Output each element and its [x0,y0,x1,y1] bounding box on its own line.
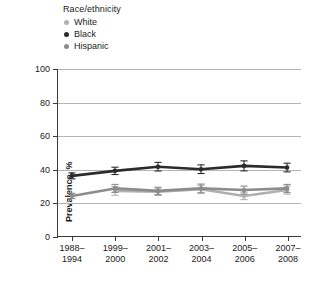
x-tick-label-line1: 2007– [260,243,316,254]
legend-marker-icon [64,44,69,49]
data-point-marker [285,186,290,191]
x-tick [115,236,116,241]
x-tick [245,236,246,241]
series-black [68,161,290,179]
plot-area: Prevalence, % 020406080100 1988–19941999… [57,69,301,237]
x-tick-label: 2007–2008 [260,243,316,265]
data-point-marker [199,167,204,172]
legend-item-label: Black [74,29,96,40]
legend-item-white: White [63,17,121,28]
x-tick-label-line2: 2008 [260,254,316,265]
legend-item-hispanic: Hispanic [63,41,121,52]
y-tick [53,237,58,238]
data-point-marker [285,165,290,170]
y-tick-label: 20 [40,198,50,208]
data-point-marker [242,164,247,169]
data-point-marker [70,194,75,199]
y-tick-label: 0 [45,232,50,242]
x-tick [72,236,73,241]
legend-item-black: Black [63,29,121,40]
y-tick-label: 60 [40,131,50,141]
data-point-marker [113,169,118,174]
x-tick [158,236,159,241]
legend-item-label: White [74,17,97,28]
data-point-marker [70,174,75,179]
data-point-marker [156,164,161,169]
legend-marker-icon [64,32,69,37]
legend-marker-icon [64,20,69,25]
data-point-marker [113,186,118,191]
data-point-marker [242,188,247,193]
y-tick-label: 80 [40,98,50,108]
legend-items: WhiteBlackHispanic [63,17,121,52]
y-tick-label: 40 [40,165,50,175]
data-point-marker [199,186,204,191]
y-tick-label: 100 [35,64,50,74]
series-line [72,166,287,176]
x-tick [288,236,289,241]
legend-item-label: Hispanic [74,41,109,52]
data-series-layer [58,69,301,236]
chart-legend: Race/ethnicity WhiteBlackHispanic [63,4,121,53]
chart-container: Race/ethnicity WhiteBlackHispanic Preval… [0,0,323,285]
x-tick [202,236,203,241]
data-point-marker [156,189,161,194]
legend-title: Race/ethnicity [63,4,121,14]
